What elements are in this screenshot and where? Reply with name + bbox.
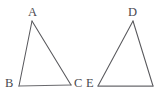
vertex-label-a: A (28, 6, 37, 19)
vertex-label-b: B (5, 77, 13, 90)
geometry-figure: A B C D E (0, 0, 161, 100)
triangle-de-edge-de (98, 21, 133, 86)
vertex-label-d: D (128, 6, 137, 19)
triangle-de-edge-right (133, 21, 153, 86)
vertex-label-e: E (86, 77, 94, 90)
triangle-abc-edge-bc (19, 85, 71, 86)
triangle-abc (19, 21, 71, 86)
triangle-abc-edge-ac (32, 21, 71, 85)
vertex-label-c: C (74, 77, 82, 90)
triangle-de (98, 21, 153, 86)
triangle-abc-edge-ab (19, 21, 32, 86)
